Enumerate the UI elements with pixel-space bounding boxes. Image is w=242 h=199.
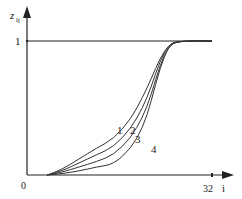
curve-2 bbox=[47, 41, 212, 175]
y-axis-label: z bbox=[9, 9, 15, 21]
x-max-label: 32 bbox=[203, 183, 213, 194]
x-axis-label: i bbox=[222, 182, 225, 194]
curve-label-3: 3 bbox=[135, 133, 141, 145]
y-one-label: 1 bbox=[15, 35, 21, 47]
y-axis-label-subscript: ij bbox=[16, 16, 20, 24]
origin-label: 0 bbox=[21, 180, 26, 191]
curve-1 bbox=[47, 41, 212, 175]
curve-label-4: 4 bbox=[151, 143, 157, 155]
curve-label-1: 1 bbox=[117, 124, 123, 136]
x-axis-arrow-icon bbox=[222, 171, 234, 179]
curve-4 bbox=[47, 41, 212, 175]
x-max-tick bbox=[211, 173, 213, 177]
curves-group bbox=[47, 41, 212, 175]
y-one-tick bbox=[26, 40, 28, 42]
curve-3 bbox=[47, 41, 212, 175]
chart: z ij 1 0 32 i 1 2 3 4 bbox=[0, 0, 242, 199]
y-axis-arrow-icon bbox=[23, 6, 31, 18]
